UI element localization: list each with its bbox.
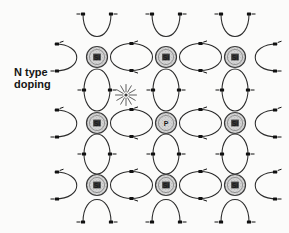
electron-pair-right-r2 [273,169,282,200]
bond-right-row-0 [255,44,277,71]
electron-pair-v-c1-r0r1 [147,89,186,92]
bond-left-row-2 [55,172,77,199]
atom-label: Si [94,120,101,127]
atom-si-r1-c2[interactable]: Si [225,113,246,134]
electron-pair-top-c2 [215,13,256,16]
atom-label: Si [232,182,239,189]
bond-v-c2-r0r1 [222,69,248,111]
electron-pair-v-c0-r1r2 [78,153,117,156]
bond-h-r1-c0c1 [111,110,153,137]
bond-top-col-0 [83,14,111,37]
electron-pair-left-r1 [51,107,64,138]
electron-pair-v-c0-r0r1 [78,89,117,92]
bond-h-r0-c1c2 [180,44,222,71]
electron-pair-v-c1-r1r2 [147,153,186,156]
electron-pair-top-c0 [77,13,118,16]
electron-pair-right-r0 [273,41,282,72]
bond-h-r2-c1c2 [180,172,222,199]
bond-h-r2-c0c1 [111,172,153,199]
bond-top-col-1 [152,14,180,37]
bond-bottom-col-1 [152,200,180,223]
atom-si-r0-c1[interactable]: Si [156,47,177,68]
electron-pair-left-r2 [51,169,64,200]
electron-pair-top-c1 [146,13,187,16]
atom-si-r0-c2[interactable]: Si [225,47,246,68]
atom-si-r2-c0[interactable]: Si [87,175,108,196]
atom-si-r2-c1[interactable]: Si [156,175,177,196]
atom-label: Si [232,54,239,61]
bond-right-row-2 [255,172,277,199]
bond-v-c0-r1r2 [84,134,110,174]
caption-line-1: N type [14,66,48,78]
n-type-doping-figure: Si Si Si Si [0,0,289,233]
electron-pair-left-r0 [51,41,64,72]
atom-si-r1-c0[interactable]: Si [87,113,108,134]
electron-pair-bottom-c2 [215,221,256,224]
electron-pair-right-r1 [273,107,282,138]
bond-left-row-1 [55,110,77,137]
bond-left-row-0 [55,44,77,71]
bond-bottom-col-0 [83,200,111,223]
atom-si-r2-c2[interactable]: Si [225,175,246,196]
electron-pair-bottom-c0 [77,221,118,224]
atom-label: Si [163,54,170,61]
bond-h-r0-c0c1 [111,44,153,71]
lattice-diagram: Si Si Si Si [0,0,289,233]
atom-p-r1-c1[interactable]: P [156,113,177,134]
electron-pair-h-r2-c0c1 [129,169,138,201]
caption-line-2: doping [14,78,51,90]
atom-label: Si [94,182,101,189]
electron-pair-h-r1-c0c1 [129,107,138,139]
bond-bottom-col-2 [221,200,249,223]
bond-right-row-1 [255,110,277,137]
electron-pair-v-c2-r1r2 [216,153,255,156]
atom-label: Si [232,120,239,127]
atom-si-r0-c0[interactable]: Si [87,47,108,68]
atom-label: P [164,120,169,127]
free-electron-starburst-icon [116,85,137,106]
atom-label: Si [94,54,101,61]
n-type-doping-caption: N typedoping [14,66,51,90]
electron-pair-v-c2-r0r1 [216,89,255,92]
bond-v-c0-r0r1 [84,69,110,111]
bond-v-c1-r0r1 [153,69,179,111]
electron-pair-h-r0-c0c1 [129,41,138,73]
electron-pair-h-r1-c1c2 [198,107,207,139]
electron-pair-h-r0-c1c2 [198,41,207,73]
bond-v-c2-r1r2 [222,134,248,174]
bond-top-col-2 [221,14,249,37]
bond-h-r1-c1c2 [180,110,222,137]
electron-pair-h-r2-c1c2 [198,169,207,201]
electron-pair-bottom-c1 [146,221,187,224]
atom-label: Si [163,182,170,189]
bond-v-c1-r1r2 [153,134,179,174]
